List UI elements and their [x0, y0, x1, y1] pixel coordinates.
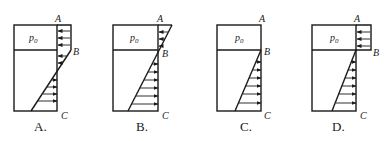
pressure-line	[235, 50, 261, 111]
point-a-label: A	[353, 13, 361, 24]
arrows-left	[357, 32, 370, 46]
option-d-panel[interactable]: p0 A B C D.	[312, 13, 379, 134]
gas-pressure-label: p0	[234, 32, 244, 45]
point-b-label: B	[73, 46, 79, 57]
gas-pressure-label: p0	[329, 32, 339, 45]
gas-pressure-label: p0	[28, 32, 38, 45]
point-c-label: C	[264, 110, 271, 121]
arrows-left	[58, 31, 70, 63]
point-b-label: B	[373, 47, 379, 58]
pressure-line	[332, 50, 356, 111]
pressure-line	[31, 50, 71, 111]
arrows-right	[336, 62, 356, 103]
arrows-right	[38, 80, 57, 101]
point-a-label: A	[156, 13, 164, 24]
option-b-label: B.	[136, 119, 148, 134]
option-c-panel[interactable]: p0 A B C C.	[217, 13, 271, 134]
point-a-label: A	[258, 13, 266, 24]
point-b-label: B	[162, 48, 168, 59]
option-d-label: D.	[332, 119, 345, 134]
arrows-right	[132, 64, 158, 104]
gas-pressure-label: p0	[129, 32, 139, 45]
gas-pressure-box	[57, 25, 71, 50]
point-b-label: B	[264, 46, 270, 57]
option-b-panel[interactable]: p0 A B C B.	[113, 13, 172, 134]
option-a-label: A.	[34, 119, 47, 134]
point-c-label: C	[360, 110, 367, 121]
point-a-label: A	[54, 13, 62, 24]
option-a-panel[interactable]: p0 A B C A.	[14, 13, 79, 134]
arrows-right	[239, 62, 261, 103]
option-c-label: C.	[240, 119, 252, 134]
point-c-label: C	[61, 110, 68, 121]
pressure-diagram: p0 A B C A. p0 A B C B.	[0, 0, 386, 141]
point-c-label: C	[162, 110, 169, 121]
